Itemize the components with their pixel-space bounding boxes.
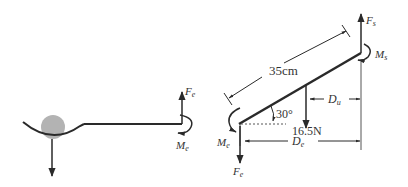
left-figure: Fe Me (23, 85, 196, 176)
angle-arc (271, 106, 274, 121)
length-tick-start (224, 93, 232, 105)
forearm-beam (239, 53, 361, 124)
fe-elbow-label: Fe (232, 165, 244, 179)
du-label: Du (327, 92, 341, 107)
me-label: Me (175, 139, 189, 153)
fs-label: Fs (365, 14, 376, 28)
length-dim-line-b (284, 31, 346, 63)
me-elbow-label: Me (216, 136, 230, 150)
free-body-diagram: Fe Me 30° 35cm Fs Ms 16.5N Du De (0, 0, 408, 187)
me-elbow-moment-curl-icon (229, 108, 240, 132)
ms-moment-curl-icon (358, 44, 370, 60)
ms-label: Ms (374, 48, 387, 62)
angle-label: 30° (276, 107, 293, 121)
length-dim-line-a (229, 77, 262, 98)
length-label: 35cm (269, 63, 298, 78)
right-figure: 30° 35cm Fs Ms 16.5N Du De Fe Me (216, 14, 387, 179)
fe-label: Fe (184, 85, 196, 99)
